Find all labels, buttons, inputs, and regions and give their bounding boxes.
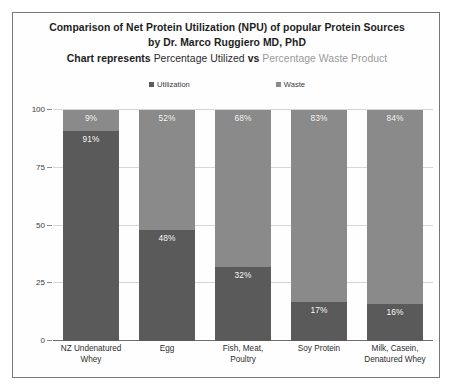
bar-segment-label: 17% xyxy=(311,305,328,315)
bar-column[interactable]: 52%48% xyxy=(139,110,195,341)
bar-segment-label: 48% xyxy=(159,233,176,243)
bar-segment-utilization[interactable]: 91% xyxy=(63,131,119,341)
bar-segment-label: 84% xyxy=(387,113,404,123)
y-axis-tick-label: 100 xyxy=(32,105,45,114)
x-axis-labels: NZ UndenaturedWheyEggFish, Meat,PoultryS… xyxy=(53,344,433,365)
y-axis-tick-label: 25 xyxy=(36,278,45,287)
bar-column[interactable]: 84%16% xyxy=(367,110,423,341)
bar-column[interactable]: 9%91% xyxy=(63,110,119,341)
bar-segment-utilization[interactable]: 16% xyxy=(367,304,423,341)
x-axis-label-line: Whey xyxy=(53,355,129,366)
x-axis-label-line: Denatured Whey xyxy=(357,355,433,366)
chart-frame: Comparison of Net Protein Utilization (N… xyxy=(12,12,440,378)
bar-segment-label: 16% xyxy=(387,307,404,317)
x-axis-label-line: Egg xyxy=(129,344,205,355)
y-axis-tick xyxy=(47,225,52,226)
x-axis-label-line: Soy Protein xyxy=(281,344,357,355)
y-axis-tick xyxy=(47,167,52,168)
y-axis-tick-label: 75 xyxy=(36,162,45,171)
x-axis-label: NZ UndenaturedWhey xyxy=(53,344,129,365)
x-axis-label-line: Fish, Meat, xyxy=(205,344,281,355)
bar-segment-label: 83% xyxy=(311,113,328,123)
bar-series-group: 9%91%52%48%68%32%83%17%84%16% xyxy=(53,110,433,341)
bar-column[interactable]: 68%32% xyxy=(215,110,271,341)
bar-segment-label: 32% xyxy=(235,270,252,280)
y-axis-tick xyxy=(47,109,52,110)
bar-segment-utilization[interactable]: 48% xyxy=(139,230,195,341)
y-axis-tick-label: 50 xyxy=(36,220,45,229)
bar-segment-waste[interactable]: 9% xyxy=(63,110,119,131)
bar-segment-label: 68% xyxy=(235,113,252,123)
x-axis-label-line: NZ Undenatured xyxy=(53,344,129,355)
bar-segment-label: 52% xyxy=(159,113,176,123)
bar-segment-label: 9% xyxy=(85,113,97,123)
bar-segment-waste[interactable]: 52% xyxy=(139,110,195,230)
plot-area: 0255075100 9%91%52%48%68%32%83%17%84%16% xyxy=(53,110,433,341)
bar-segment-utilization[interactable]: 17% xyxy=(291,302,347,341)
bar-column[interactable]: 83%17% xyxy=(291,110,347,341)
y-axis-tick xyxy=(47,340,52,341)
y-axis-tick xyxy=(47,282,52,283)
x-axis-label: Soy Protein xyxy=(281,344,357,365)
plot-wrapper: 0255075100 9%91%52%48%68%32%83%17%84%16%… xyxy=(13,13,441,379)
y-axis-tick-label: 0 xyxy=(41,336,45,345)
bar-segment-waste[interactable]: 83% xyxy=(291,110,347,302)
x-axis-label: Egg xyxy=(129,344,205,365)
bar-segment-utilization[interactable]: 32% xyxy=(215,267,271,341)
x-axis-label: Milk, Casein,Denatured Whey xyxy=(357,344,433,365)
x-axis-label-line: Poultry xyxy=(205,355,281,366)
x-axis-label-line: Milk, Casein, xyxy=(357,344,433,355)
bar-segment-waste[interactable]: 84% xyxy=(367,110,423,304)
bar-segment-label: 91% xyxy=(83,134,100,144)
bar-segment-waste[interactable]: 68% xyxy=(215,110,271,267)
x-axis-label: Fish, Meat,Poultry xyxy=(205,344,281,365)
